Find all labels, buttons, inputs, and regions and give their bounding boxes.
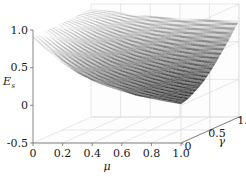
x-tick-label-4: 0.8 (143, 147, 161, 160)
surface-plot-figure: -0.500.51.000.20.40.60.81.000.51.0Esμγ (0, 0, 246, 177)
z-tick-label-0: -0.5 (7, 137, 28, 150)
x-axis-title: μ (103, 160, 110, 173)
x-tick-label-0: 0 (30, 147, 37, 160)
z-axis-title-sub: s (11, 82, 15, 90)
z-axis-title-text: Es (2, 75, 16, 90)
x-tick-label-2: 0.4 (83, 147, 101, 160)
z-tick-label-2: 0.5 (11, 61, 29, 74)
z-tick-label-1: 0 (21, 99, 28, 112)
z-axis-title: Es (2, 75, 16, 90)
y-axis-title: γ (219, 135, 226, 148)
y-tick-label-2: 1.0 (237, 114, 246, 127)
y-tick-label-0: 0 (185, 140, 192, 153)
z-tick-label-3: 1.0 (11, 24, 29, 37)
x-tick-label-1: 0.2 (54, 147, 72, 160)
x-tick-label-3: 0.6 (113, 147, 131, 160)
plot-canvas: -0.500.51.000.20.40.60.81.000.51.0Esμγ (0, 0, 246, 177)
